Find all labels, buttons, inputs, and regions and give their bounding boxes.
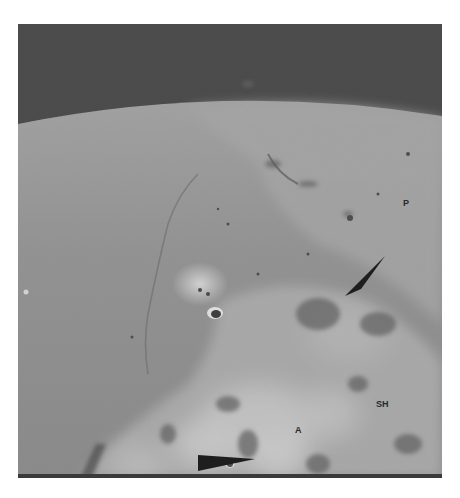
label-p: P [403,199,409,208]
label-a: A [295,426,302,435]
lunar-photograph: P SH A [18,24,442,478]
label-sh: SH [376,400,389,409]
lunar-surface-illustration [18,24,442,478]
